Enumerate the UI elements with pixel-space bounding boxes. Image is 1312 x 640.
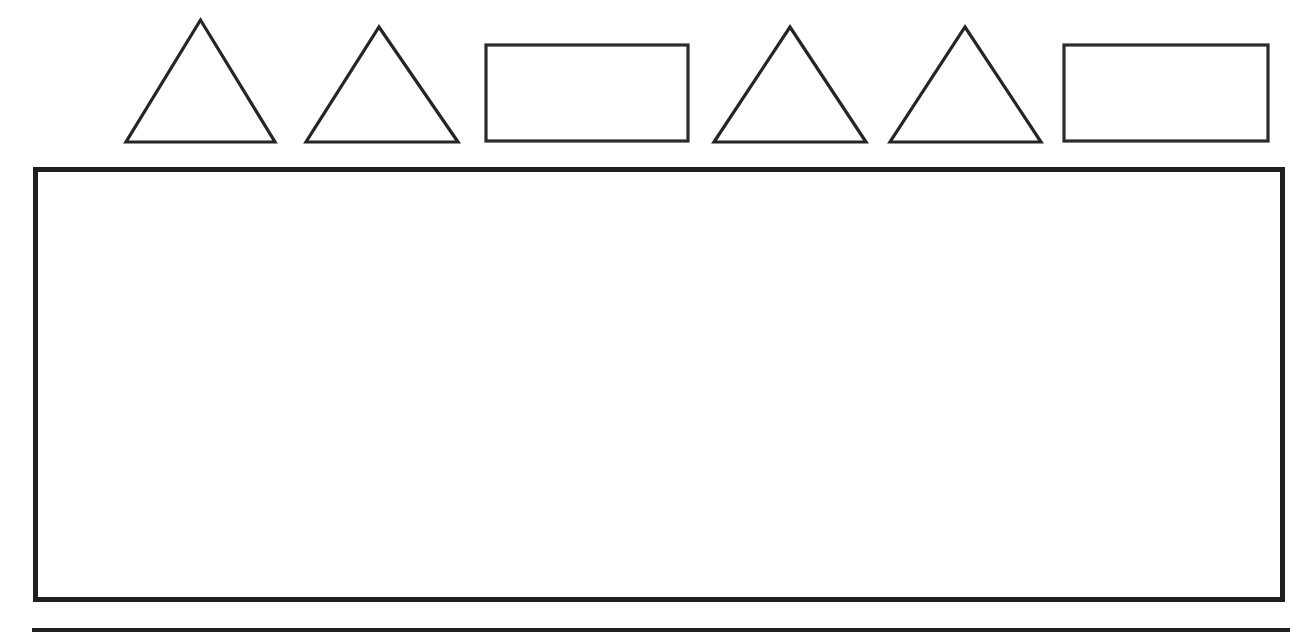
pattern-shape-triangle-3 [712,25,868,144]
pattern-shape-triangle-2 [304,25,460,144]
answer-box-content[interactable] [38,172,1280,597]
pattern-shape-triangle-4 [888,25,1043,144]
bottom-separator-rule [32,628,1290,632]
answer-box[interactable] [33,167,1285,602]
shape-pattern-row [0,0,1312,150]
pattern-shape-triangle-1 [124,18,277,144]
worksheet-page [0,0,1312,640]
pattern-shape-rectangle-2 [1062,43,1270,143]
pattern-shape-rectangle-1 [484,43,690,143]
